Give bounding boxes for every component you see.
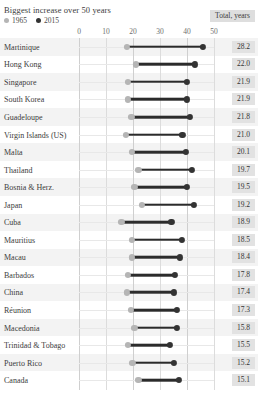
chart-row[interactable]	[79, 196, 214, 214]
data-point-1965[interactable]	[127, 307, 133, 313]
chart-row[interactable]	[79, 38, 214, 56]
data-point-1965[interactable]	[135, 377, 141, 383]
data-point-1965[interactable]	[129, 149, 135, 155]
total-years-value: 20.1	[232, 146, 255, 158]
total-years-value: 21.8	[232, 111, 255, 123]
category-label: Hong Kong	[4, 60, 42, 69]
data-point-1965[interactable]	[125, 96, 131, 102]
x-tick-20: 20	[129, 27, 137, 36]
chart-row[interactable]	[79, 231, 214, 249]
category-label: Macedonia	[4, 323, 40, 332]
data-point-2015[interactable]	[171, 289, 177, 295]
chart-row[interactable]	[79, 91, 214, 109]
data-point-1965[interactable]	[125, 79, 131, 85]
data-point-1965[interactable]	[124, 44, 130, 50]
legend-item-2015[interactable]: 2015	[36, 16, 59, 25]
chart-row[interactable]	[79, 161, 214, 179]
data-point-2015[interactable]	[177, 254, 183, 260]
dumbbell-connector	[132, 151, 186, 154]
data-point-1965[interactable]	[133, 61, 139, 67]
chart-row[interactable]	[79, 108, 214, 126]
x-tick-30: 30	[156, 27, 164, 36]
data-point-2015[interactable]	[171, 272, 177, 278]
category-label: Martinique	[4, 42, 40, 51]
dumbbell-connector	[136, 63, 195, 66]
total-years-header: Total, years	[210, 10, 255, 22]
data-point-2015[interactable]	[192, 61, 198, 67]
data-point-1965[interactable]	[131, 324, 137, 330]
x-tick-50: 50	[210, 27, 218, 36]
gridline-50	[214, 38, 215, 390]
legend-item-1965[interactable]: 1965	[4, 16, 27, 25]
total-years-value: 19.2	[232, 199, 255, 211]
chart-row[interactable]	[79, 178, 214, 196]
data-point-1965[interactable]	[135, 167, 141, 173]
chart-row[interactable]	[79, 319, 214, 337]
total-years-value: 15.8	[232, 322, 255, 334]
data-point-2015[interactable]	[174, 324, 180, 330]
data-point-1965[interactable]	[123, 131, 129, 137]
x-tick-0: 0	[77, 27, 81, 36]
chart-row[interactable]	[79, 336, 214, 354]
chart-row[interactable]	[79, 249, 214, 267]
data-point-2015[interactable]	[170, 360, 176, 366]
data-point-1965[interactable]	[118, 219, 124, 225]
data-point-2015[interactable]	[184, 79, 190, 85]
chart-row[interactable]	[79, 301, 214, 319]
chart-row[interactable]	[79, 371, 214, 389]
data-point-2015[interactable]	[184, 184, 190, 190]
chart-row[interactable]	[79, 126, 214, 144]
data-point-2015[interactable]	[200, 44, 206, 50]
chart-row[interactable]	[79, 214, 214, 232]
chart-row[interactable]	[79, 73, 214, 91]
dumbbell-connector	[134, 186, 187, 189]
category-label: Thailand	[4, 165, 32, 174]
data-point-2015[interactable]	[191, 202, 197, 208]
total-years-value: 21.9	[232, 93, 255, 105]
circle-icon	[4, 18, 9, 23]
dumbbell-connector	[127, 291, 174, 294]
total-years-value: 18.9	[232, 216, 255, 228]
data-point-2015[interactable]	[167, 342, 173, 348]
data-point-1965[interactable]	[139, 202, 145, 208]
chart-row[interactable]	[79, 56, 214, 74]
chart-row[interactable]	[79, 284, 214, 302]
plot-area	[79, 38, 214, 390]
data-point-2015[interactable]	[179, 131, 185, 137]
total-years-value: 15.2	[232, 357, 255, 369]
data-point-1965[interactable]	[125, 272, 131, 278]
data-point-2015[interactable]	[183, 149, 189, 155]
total-years-value: 17.4	[232, 286, 255, 298]
total-years-value: 15.1	[232, 374, 255, 386]
total-years-value: 19.5	[232, 181, 255, 193]
total-years-value: 15.5	[232, 339, 255, 351]
category-label: Réunion	[4, 306, 31, 315]
data-point-2015[interactable]	[188, 167, 194, 173]
data-point-1965[interactable]	[129, 237, 135, 243]
category-label: Bosnia & Herz.	[4, 183, 54, 192]
data-point-2015[interactable]	[176, 377, 182, 383]
total-years-value: 18.4	[232, 251, 255, 263]
data-point-1965[interactable]	[129, 254, 135, 260]
data-point-2015[interactable]	[174, 307, 180, 313]
data-point-1965[interactable]	[125, 342, 131, 348]
chart-row[interactable]	[79, 354, 214, 372]
total-years-value: 28.2	[232, 41, 255, 53]
data-point-1965[interactable]	[124, 289, 130, 295]
data-point-1965[interactable]	[129, 360, 135, 366]
chart-legend: 19652015	[4, 16, 59, 25]
total-years-value: 22.0	[232, 58, 255, 70]
data-point-1965[interactable]	[128, 114, 134, 120]
dumbbell-connector	[142, 203, 194, 206]
data-point-2015[interactable]	[168, 219, 174, 225]
x-axis-tick-labels: 01020304050	[79, 27, 214, 38]
total-years-value: 21.0	[232, 129, 255, 141]
data-point-1965[interactable]	[131, 184, 137, 190]
category-label: Puerto Rico	[4, 358, 42, 367]
data-point-2015[interactable]	[179, 237, 185, 243]
chart-row[interactable]	[79, 143, 214, 161]
data-point-2015[interactable]	[184, 96, 190, 102]
data-point-2015[interactable]	[187, 114, 193, 120]
category-label: China	[4, 288, 23, 297]
chart-row[interactable]	[79, 266, 214, 284]
